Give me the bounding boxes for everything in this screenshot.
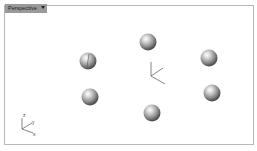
- sphere-3[interactable]: [201, 50, 218, 67]
- sphere-6[interactable]: [144, 105, 161, 122]
- axis-indicator-y: [22, 123, 32, 129]
- axis-label-z: z: [23, 112, 26, 118]
- viewport-title: Perspective: [8, 4, 37, 13]
- sphere-5[interactable]: [204, 85, 221, 102]
- axis-label-x: x: [33, 131, 36, 137]
- world-axes-gizmo: [151, 62, 165, 84]
- axis-label-y: y: [32, 119, 35, 125]
- sphere-4[interactable]: [82, 89, 99, 106]
- viewport-title-tab[interactable]: Perspective: [5, 4, 47, 13]
- gizmo-y-axis: [151, 68, 163, 76]
- gizmo-x-axis: [151, 76, 165, 84]
- axis-indicator-x: [22, 129, 33, 133]
- scene-canvas[interactable]: z y x: [0, 0, 257, 151]
- sphere-1[interactable]: [140, 34, 157, 51]
- chevron-down-icon[interactable]: [41, 6, 45, 9]
